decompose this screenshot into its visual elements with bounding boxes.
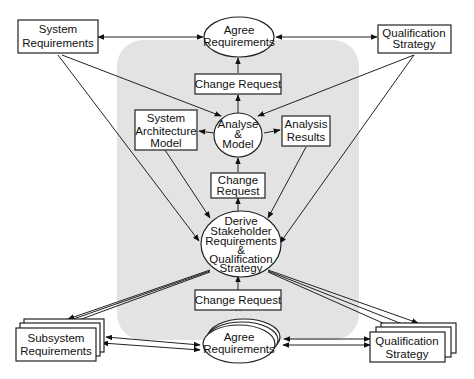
node-analyse-model[interactable]: Analyse & Model [214, 113, 262, 157]
node-qualification-strategy-bottom[interactable]: Qualification Strategy [370, 323, 456, 362]
node-label: Architecture [135, 125, 196, 137]
process-diagram: System Requirements Agree Requirements Q… [0, 0, 474, 379]
node-label: Results [287, 131, 326, 143]
node-label: Qualification [375, 335, 438, 347]
node-label: Agree [224, 331, 255, 343]
node-change-request-2[interactable]: Change Request [211, 173, 265, 198]
node-analysis-results[interactable]: Analysis Results [282, 116, 330, 146]
node-label: Analysis [285, 118, 328, 130]
node-subsystem-requirements[interactable]: Subsystem Requirements [16, 319, 104, 361]
node-label: Agree [224, 24, 255, 36]
node-label: Model [222, 138, 253, 150]
node-label: Change Request [195, 78, 282, 90]
node-label: System [147, 112, 185, 124]
node-derive-stakeholder-requirements[interactable]: Derive Stakeholder Requirements & Qualif… [201, 211, 281, 277]
node-qualification-strategy-top[interactable]: Qualification Strategy [378, 25, 451, 53]
node-label: Requirements [20, 345, 92, 357]
node-label: Strategy [220, 262, 263, 274]
node-system-requirements[interactable]: System Requirements [18, 20, 98, 53]
node-label: Change Request [195, 294, 282, 306]
node-label: Strategy [386, 348, 429, 360]
node-change-request-3[interactable]: Change Request [195, 290, 282, 310]
node-label: Requirements [203, 343, 275, 355]
node-label: Requirements [203, 36, 275, 48]
node-label: Model [150, 137, 181, 149]
node-label: Request [217, 185, 261, 197]
node-agree-requirements-top[interactable]: Agree Requirements [203, 17, 275, 57]
node-system-architecture-model[interactable]: System Architecture Model [135, 110, 197, 150]
node-label: Strategy [393, 38, 436, 50]
node-change-request-1[interactable]: Change Request [195, 74, 282, 94]
node-label: System [39, 23, 77, 35]
node-label: Subsystem [28, 332, 85, 344]
node-label: Requirements [22, 37, 94, 49]
